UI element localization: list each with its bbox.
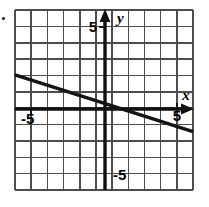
y-axis-name-label: y [115,10,124,26]
page-speck [2,17,5,20]
x-axis-tick-label-positive: 5 [173,107,181,124]
graph-figure: 5 -5 5 -5 y x [0,0,209,207]
y-axis-tick-label-negative: -5 [113,166,126,183]
coordinate-plane-svg: 5 -5 5 -5 y x [0,0,209,207]
x-axis-tick-label-negative: -5 [21,110,34,127]
y-axis-tick-label-positive: 5 [89,18,97,35]
x-axis-name-label: x [181,87,190,103]
